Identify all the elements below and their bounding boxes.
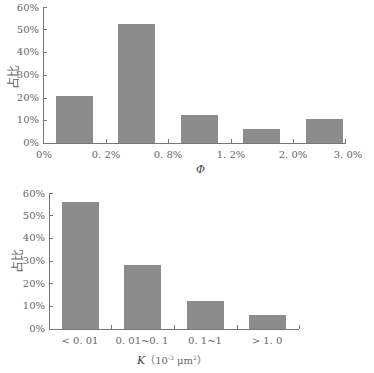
x-tick (111, 325, 112, 329)
x-axis (49, 329, 299, 330)
y-tick-label: 10% (11, 301, 45, 311)
y-tick (49, 238, 53, 239)
y-tick (49, 306, 53, 307)
y-tick-label: 40% (11, 233, 45, 243)
x-axis-title: K（10-3 μm2） (137, 352, 207, 367)
y-tick-label: 50% (11, 211, 45, 221)
bar (187, 301, 224, 329)
x-tick (237, 325, 238, 329)
x-tick-label: < 0. 01 (50, 336, 110, 346)
x-tick-label: > 1. 0 (237, 336, 297, 346)
y-tick (49, 193, 53, 194)
x-axis-unit: （10-3 μm2） (145, 355, 207, 366)
bar (249, 315, 286, 329)
x-tick-label: 0. 1~1 (175, 336, 235, 346)
bar (62, 202, 99, 329)
y-tick-label: 0% (11, 324, 45, 334)
y-tick (49, 283, 53, 284)
y-tick-label: 20% (11, 279, 45, 289)
permeability-histogram: 占比 60% 50% 40% 30% 20% 10% 0% < 0. 01 0.… (0, 0, 374, 373)
y-tick (49, 215, 53, 216)
y-tick-label: 30% (11, 256, 45, 266)
x-axis-variable: K (137, 354, 145, 367)
x-tick-label: 0. 01~0. 1 (112, 336, 172, 346)
y-tick (49, 261, 53, 262)
x-tick (299, 325, 300, 329)
bar (124, 265, 161, 329)
y-tick-label: 60% (11, 189, 45, 199)
x-tick (174, 325, 175, 329)
